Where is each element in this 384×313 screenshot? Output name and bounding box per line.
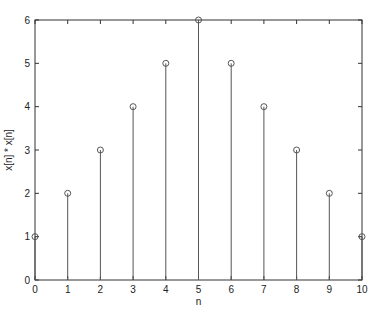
x-tick-label: 6 (228, 284, 234, 295)
x-tick-label: 1 (65, 284, 71, 295)
stem-series (32, 17, 365, 280)
x-axis-label: n (196, 296, 202, 307)
y-axis-label: x[n] * x[n] (3, 129, 14, 171)
x-tick-label: 8 (294, 284, 300, 295)
x-tick-label: 4 (163, 284, 169, 295)
y-tick-label: 0 (24, 275, 30, 286)
x-tick-label: 0 (32, 284, 38, 295)
x-tick-label: 2 (98, 284, 104, 295)
y-tick-label: 6 (24, 15, 30, 26)
y-tick-label: 2 (24, 188, 30, 199)
y-tick-label: 5 (24, 58, 30, 69)
y-tick-label: 1 (24, 231, 30, 242)
y-tick-label: 3 (24, 145, 30, 156)
x-tick-label: 3 (130, 284, 136, 295)
x-tick-label: 9 (327, 284, 333, 295)
x-tick-label: 10 (356, 284, 368, 295)
x-tick-label: 7 (261, 284, 267, 295)
stem-plot: 0123456789100123456 n x[n] * x[n] (0, 0, 384, 313)
y-tick-label: 4 (24, 101, 30, 112)
plot-axes: 0123456789100123456 (24, 15, 368, 296)
x-tick-label: 5 (196, 284, 202, 295)
